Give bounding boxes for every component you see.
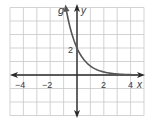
y-tick-label-2: 2: [68, 45, 73, 55]
x-tick-label-neg2: −2: [42, 80, 52, 90]
exponential-chart: g y x 2 −4 −2 2 4: [0, 0, 153, 125]
x-tick-label-neg4: −4: [15, 80, 25, 90]
curve-label-g: g: [58, 4, 65, 16]
x-tick-label-4: 4: [128, 80, 133, 90]
x-axis-label: x: [136, 79, 143, 90]
curve-g-arrow-icon: [64, 5, 70, 12]
x-tick-label-2: 2: [101, 80, 106, 90]
y-axis-label: y: [80, 5, 87, 16]
